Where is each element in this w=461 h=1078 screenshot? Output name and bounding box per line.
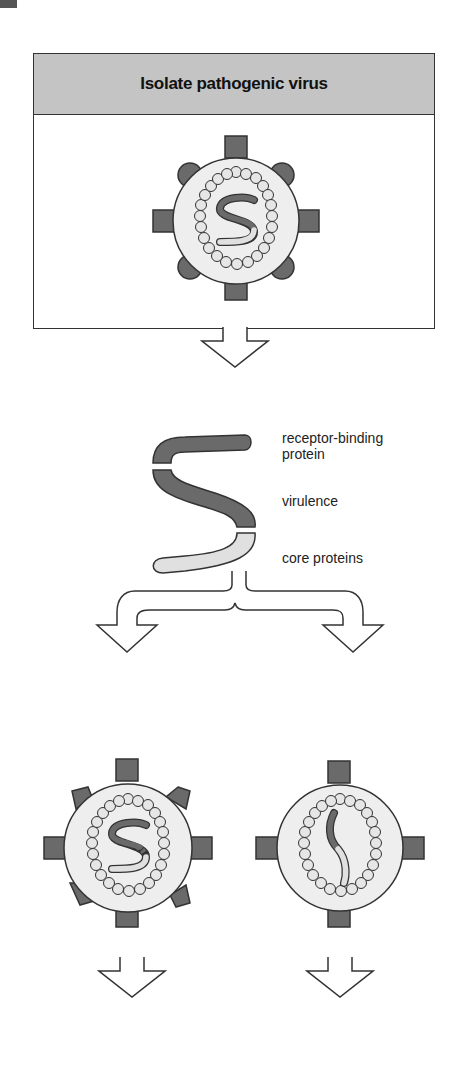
label-line: virulence <box>282 493 338 509</box>
label-core-proteins: core proteins <box>282 550 363 566</box>
corner-marker <box>0 0 17 8</box>
mutated-virus-icon <box>40 755 220 930</box>
split-arrow-icon <box>95 570 405 660</box>
label-virulence: virulence <box>282 493 338 509</box>
step-title-text: Isolate pathogenic virus <box>140 74 327 94</box>
down-arrow-icon <box>200 327 270 369</box>
label-line: core proteins <box>282 550 363 566</box>
label-receptor-binding-protein: receptor-bindingprotein <box>282 430 383 462</box>
step-title: Delete virulencegene <box>243 658 441 732</box>
step-title-text: Delete virulence <box>279 677 405 697</box>
step-title-text: Mutate virulence <box>67 676 196 696</box>
down-arrow-icon <box>97 957 167 999</box>
step-title: Mutate virulencegene <box>31 656 232 732</box>
label-line: protein <box>282 446 325 462</box>
label-line: receptor-binding <box>282 430 383 446</box>
step-title-text: gene <box>323 697 361 717</box>
virulence-gene-diagram <box>145 425 265 580</box>
deleted-gene-virus-icon <box>252 755 432 930</box>
result-line: avirulent. It can be used as a vaccine <box>100 1015 363 1036</box>
step-title-text: gene <box>112 696 150 716</box>
step-title: Isolate pathogenic virus <box>34 54 434 115</box>
down-arrow-icon <box>305 957 375 999</box>
pathogenic-virus-icon <box>150 130 330 305</box>
